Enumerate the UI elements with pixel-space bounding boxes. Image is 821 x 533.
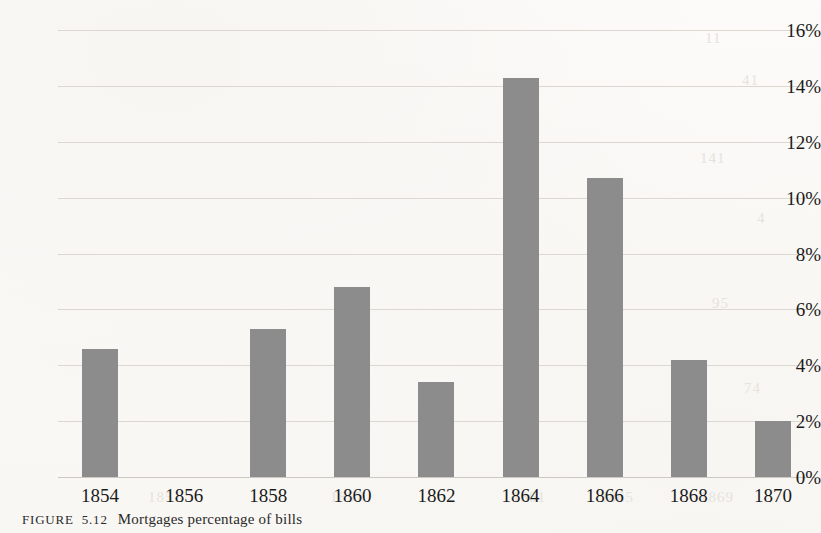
bar-slot-1864	[479, 0, 563, 500]
caption-text: Mortgages percentage of bills	[118, 511, 303, 527]
bar-slot-1860	[310, 0, 394, 500]
bar-slot-1868	[647, 0, 731, 500]
bar-slot-1854	[58, 0, 142, 500]
bar-1868	[671, 360, 707, 477]
bar-1866	[587, 178, 623, 477]
bar-slot-1862	[394, 0, 478, 500]
figure-container: 11411414957418511857186118651869 0%2%4%6…	[0, 0, 821, 533]
bar-slot-1858	[226, 0, 310, 500]
figure-caption: FIGURE5.12Mortgages percentage of bills	[22, 511, 302, 528]
bar-1862	[418, 382, 454, 477]
caption-number: 5.12	[82, 512, 108, 527]
bar-1858	[250, 329, 286, 477]
bar-slot-1856	[142, 0, 226, 500]
bar-1860	[334, 287, 370, 477]
bar-chart-plot-area: 0%2%4%6%8%10%12%14%16% 18541856185818601…	[0, 0, 821, 500]
bar-1864	[503, 78, 539, 478]
bars-layer	[58, 0, 815, 500]
bar-slot-1870	[731, 0, 815, 500]
caption-label: FIGURE	[22, 512, 74, 527]
bar-slot-1866	[563, 0, 647, 500]
bar-1870	[755, 421, 791, 477]
figure-caption-band: FIGURE5.12Mortgages percentage of bills	[0, 500, 821, 533]
bar-1854	[82, 349, 118, 478]
